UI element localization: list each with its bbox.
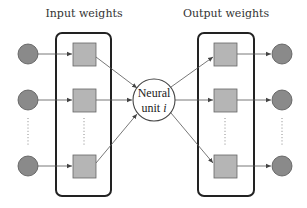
input-weight-2 <box>73 89 96 112</box>
output-weight-n <box>214 155 237 178</box>
unit-in-edges <box>96 57 137 163</box>
output-node-2 <box>272 90 292 110</box>
output-weights-title: Output weights <box>183 7 270 20</box>
output-weight-2 <box>214 89 237 112</box>
input-node-n <box>18 156 38 176</box>
ellipsis-dots <box>28 118 282 146</box>
unit-out-edges <box>171 57 213 163</box>
neural-unit-diagram: Input weights Output weights <box>0 0 307 208</box>
neural-unit-label-line1: Neural <box>138 86 171 100</box>
input-weight-n <box>73 155 96 178</box>
output-node-1 <box>272 44 292 64</box>
neural-unit-label-line2: unit i <box>141 101 166 115</box>
output-weight-1 <box>214 43 237 66</box>
input-weight-1 <box>73 43 96 66</box>
input-node-2 <box>18 90 38 110</box>
input-node-1 <box>18 44 38 64</box>
input-weights-title: Input weights <box>45 7 122 20</box>
output-node-n <box>272 156 292 176</box>
